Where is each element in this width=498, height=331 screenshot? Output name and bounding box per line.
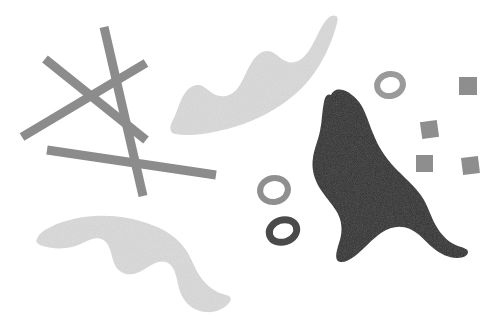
square-middle xyxy=(420,120,439,139)
abstract-shapes-scene xyxy=(0,0,498,331)
image-canvas xyxy=(0,0,498,331)
square-top-right xyxy=(459,77,477,95)
square-bottom-left xyxy=(416,155,433,172)
square-bottom-right xyxy=(461,156,480,175)
